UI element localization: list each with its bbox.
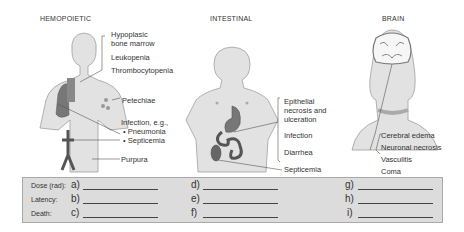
blank-g[interactable] [358, 189, 433, 190]
blank-c[interactable] [83, 217, 158, 218]
letter-g: g) [345, 179, 354, 190]
blank-i[interactable] [358, 217, 433, 218]
label-ulceration: ulceration [284, 115, 317, 124]
blank-h[interactable] [358, 203, 433, 204]
label-cerebral-edema: Cerebral edema [381, 131, 435, 140]
blank-e[interactable] [203, 203, 278, 204]
label-hypoplasic: Hypoplasic [111, 30, 148, 39]
row-label-latency: Latency: [31, 196, 57, 203]
blank-b[interactable] [83, 203, 158, 204]
letter-a: a) [71, 179, 80, 190]
label-thrombocytopenia: Thrombocytopenia [111, 66, 173, 75]
letter-b: b) [71, 193, 80, 204]
row-label-dose: Dose (rad): [31, 182, 66, 189]
letter-h: h) [345, 193, 354, 204]
letter-f: f) [191, 207, 197, 218]
label-necrosis-and: necrosis and [284, 106, 327, 115]
letter-c: c) [71, 207, 79, 218]
label-infection: Infection, e.g., [121, 118, 168, 127]
blank-a[interactable] [83, 189, 158, 190]
letter-d: d) [191, 179, 200, 190]
label-petechiae: Petechiae [122, 96, 155, 105]
label-diarrhea: Diarrhea [284, 148, 313, 157]
label-coma: Coma [381, 167, 401, 176]
label-bone-marrow: bone marrow [111, 39, 155, 48]
label-infection-2: Infection [284, 131, 312, 140]
blank-d[interactable] [203, 189, 278, 190]
label-vasculitis: Vasculitis [381, 155, 412, 164]
label-neuronal-necrosis: Neuronal necrosis [381, 143, 441, 152]
letter-e: e) [191, 193, 200, 204]
label-epithelial: Epithelial [284, 97, 314, 106]
panel-title-hemopoietic: HEMOPOIETIC [40, 15, 91, 22]
label-leukopenia: Leukopenia [111, 53, 150, 62]
blank-f[interactable] [203, 217, 278, 218]
panel-title-intestinal: INTESTINAL [210, 15, 252, 22]
panel-title-brain: BRAIN [382, 15, 404, 22]
label-septicemia-1: • Septicemia [123, 136, 165, 145]
letter-i: i) [347, 207, 353, 218]
intestinal-body-illustration [186, 47, 282, 172]
label-septicemia-2: Septicemia [284, 165, 321, 174]
row-label-death: Death: [31, 210, 52, 217]
answer-box: Dose (rad): Latency: Death: a) b) c) d) … [22, 177, 443, 223]
label-pneumonia: • Pneumonia [123, 127, 166, 136]
label-purpura: Purpura [121, 155, 148, 164]
